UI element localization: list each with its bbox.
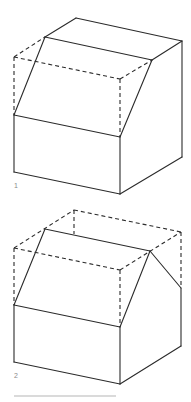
visible-edge-line [14,172,120,194]
visible-edge-line [120,251,150,327]
visible-edge-line [45,37,152,60]
hidden-edge-line [74,210,181,232]
hidden-edge-line [14,37,45,57]
visible-edge-line [14,362,120,384]
visible-edge-line [150,251,181,288]
figure-1-label: 1 [14,182,18,189]
visible-edge-line [120,346,181,384]
hidden-edge-line [14,210,74,248]
figure-2-label: 2 [14,372,18,379]
visible-edge-line [120,157,182,194]
hidden-edge-line [120,60,152,79]
visible-edge-line [45,229,150,251]
diagram-canvas: 1 2 [0,0,191,402]
visible-edge-line [14,305,120,327]
visible-edge-line [14,37,45,115]
figure-1-shed-roof-box [14,18,182,194]
figure-2-gable-roof-box [14,210,181,384]
visible-edge-line [45,18,76,37]
visible-edge-line [152,41,182,60]
visible-edge-line [14,229,45,305]
visible-edge-line [76,18,182,41]
visible-edge-line [14,115,120,137]
visible-edge-line [120,60,152,137]
